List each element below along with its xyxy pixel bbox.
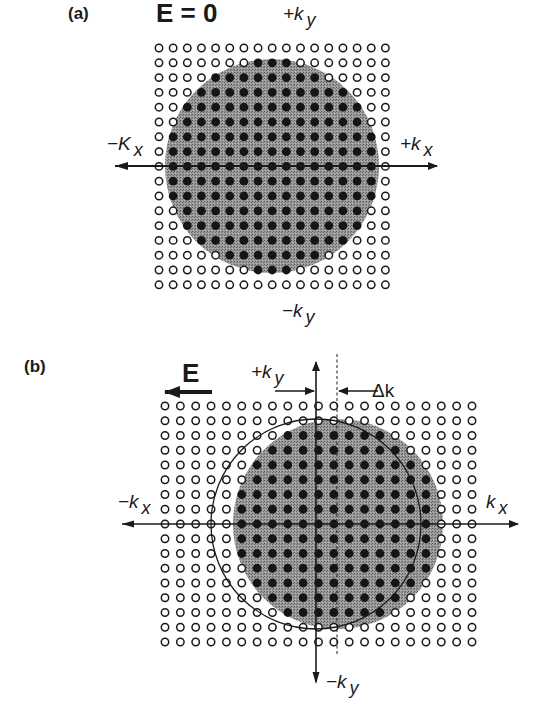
empty-state-dot [361, 402, 368, 409]
empty-state-dot [177, 417, 184, 424]
panel-b-momentum-grid [122, 354, 518, 684]
occupied-state-dot [268, 177, 277, 186]
occupied-state-dot [299, 564, 308, 573]
empty-state-dot [207, 417, 214, 424]
empty-state-dot [353, 237, 360, 244]
occupied-state-dot [211, 132, 220, 141]
occupied-state-dot [283, 579, 292, 588]
empty-state-dot [353, 59, 360, 66]
empty-state-dot [207, 491, 214, 498]
occupied-state-dot [268, 475, 277, 484]
occupied-state-dot [211, 73, 220, 82]
occupied-state-dot [310, 192, 319, 201]
occupied-state-dot [197, 103, 206, 112]
occupied-state-dot [360, 475, 369, 484]
occupied-state-dot [376, 579, 385, 588]
occupied-state-dot [391, 446, 400, 455]
empty-state-dot [161, 417, 168, 424]
occupied-state-dot [253, 579, 262, 588]
empty-state-dot [192, 535, 199, 542]
empty-state-dot [177, 476, 184, 483]
occupied-state-dot [268, 266, 277, 275]
occupied-state-dot [391, 475, 400, 484]
occupied-state-dot [296, 206, 305, 215]
occupied-state-dot [324, 132, 333, 141]
empty-state-dot [407, 402, 414, 409]
occupied-state-dot [299, 549, 308, 558]
panel-a-label: (a) [68, 5, 89, 22]
empty-state-dot [269, 609, 276, 616]
occupied-state-dot [254, 266, 263, 275]
occupied-state-dot [360, 564, 369, 573]
empty-state-dot [422, 579, 429, 586]
empty-state-dot [325, 44, 332, 51]
occupied-state-dot [376, 446, 385, 455]
occupied-state-dot [211, 221, 220, 230]
occupied-state-dot [324, 236, 333, 245]
empty-state-dot [297, 281, 304, 288]
occupied-state-dot [169, 132, 178, 141]
kx-axis-arrowhead-left [115, 162, 128, 170]
empty-state-dot [253, 417, 260, 424]
occupied-state-dot [360, 490, 369, 499]
empty-state-dot [192, 594, 199, 601]
empty-state-dot [468, 550, 475, 557]
empty-state-dot [330, 402, 337, 409]
empty-state-dot [453, 402, 460, 409]
empty-state-dot [283, 44, 290, 51]
empty-state-dot [382, 59, 389, 66]
empty-state-dot [353, 44, 360, 51]
empty-state-dot [438, 550, 445, 557]
occupied-state-dot [296, 221, 305, 230]
empty-state-dot [240, 266, 247, 273]
empty-state-dot [192, 550, 199, 557]
occupied-state-dot [345, 593, 354, 602]
occupied-state-dot [376, 593, 385, 602]
empty-state-dot [438, 638, 445, 645]
occupied-state-dot [225, 206, 234, 215]
empty-state-dot [346, 402, 353, 409]
empty-state-dot [438, 432, 445, 439]
occupied-state-dot [406, 549, 415, 558]
occupied-state-dot [296, 88, 305, 97]
empty-state-dot [223, 624, 230, 631]
occupied-state-dot [376, 490, 385, 499]
occupied-state-dot [339, 132, 348, 141]
occupied-state-dot [406, 534, 415, 543]
empty-state-dot [155, 118, 162, 125]
empty-state-dot [240, 44, 247, 51]
empty-state-dot [254, 44, 261, 51]
empty-state-dot [169, 59, 176, 66]
empty-state-dot [422, 432, 429, 439]
empty-state-dot [253, 447, 260, 454]
empty-state-dot [177, 579, 184, 586]
empty-state-dot [226, 44, 233, 51]
occupied-state-dot [225, 251, 234, 260]
empty-state-dot [422, 447, 429, 454]
empty-state-dot [284, 638, 291, 645]
occupied-state-dot [391, 593, 400, 602]
occupied-state-dot [345, 431, 354, 440]
occupied-state-dot [254, 251, 263, 260]
occupied-state-dot [254, 73, 263, 82]
empty-state-dot [177, 609, 184, 616]
empty-state-dot [226, 266, 233, 273]
occupied-state-dot [296, 192, 305, 201]
empty-state-dot [207, 638, 214, 645]
occupied-state-dot [299, 446, 308, 455]
occupied-state-dot [296, 177, 305, 186]
empty-state-dot [422, 594, 429, 601]
empty-state-dot [207, 461, 214, 468]
empty-state-dot [161, 506, 168, 513]
empty-state-dot [192, 402, 199, 409]
occupied-state-dot [310, 103, 319, 112]
empty-state-dot [368, 207, 375, 214]
occupied-state-dot [183, 192, 192, 201]
empty-state-dot [192, 432, 199, 439]
occupied-state-dot [310, 177, 319, 186]
empty-state-dot [422, 638, 429, 645]
occupied-state-dot [299, 608, 308, 617]
empty-state-dot [155, 252, 162, 259]
occupied-state-dot [310, 236, 319, 245]
empty-state-dot [207, 447, 214, 454]
